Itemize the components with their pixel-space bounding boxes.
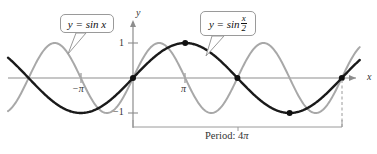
y-axis-arrowhead <box>130 20 136 27</box>
period-annotation-label: Period: 4π <box>205 130 248 141</box>
fraction-x-over-2: x2 <box>241 14 248 34</box>
y-axis-label: y <box>136 7 140 18</box>
x-axis-arrowhead <box>349 75 356 81</box>
marked-point <box>287 110 293 116</box>
period-annotation-symbol: π <box>243 130 248 141</box>
marked-point <box>130 75 136 81</box>
callout-sin-half-x-prefix: y = sin <box>209 18 240 30</box>
marked-point <box>182 40 188 46</box>
y-tick-label-1: 1 <box>119 37 124 48</box>
y-tick-label-neg-1: −1 <box>113 106 124 117</box>
callout-sin-x: y = sin x <box>60 14 114 33</box>
callout-sin-x-tail <box>68 33 86 54</box>
x-axis-label: x <box>367 71 371 82</box>
trig-period-figure: y = sin x y = sinx2 x y 1 −1 −π π Period… <box>0 0 377 154</box>
callout-sin-x-text: y = sin x <box>68 18 106 30</box>
callout-sin-half-x: y = sinx2 <box>200 11 256 36</box>
marked-point <box>234 75 240 81</box>
function-plot <box>0 0 377 154</box>
period-annotation-prefix: Period: 4 <box>205 130 243 141</box>
axes-group <box>8 20 356 128</box>
fraction-denominator: 2 <box>241 24 248 33</box>
x-tick-label-pi: π <box>181 83 186 94</box>
x-tick-label-neg-pi: −π <box>72 83 84 94</box>
callout-sin-half-x-tail <box>206 36 224 56</box>
